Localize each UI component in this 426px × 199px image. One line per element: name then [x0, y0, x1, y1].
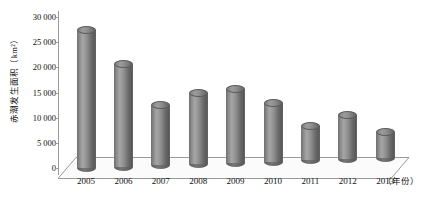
- x-axis-tick-labels: 200520062007200820092010201120122013: [58, 176, 426, 190]
- cylinder-shape: [338, 111, 357, 163]
- cylinder-body: [301, 126, 320, 160]
- bar-2008: [189, 89, 208, 168]
- bar-2012: [338, 111, 357, 163]
- x-axis-tick-label-2010: 2010: [253, 176, 293, 187]
- cylinder-body: [376, 132, 395, 157]
- y-axis-tick-label: 30 000: [10, 13, 56, 22]
- cylinder-shape: [114, 60, 133, 171]
- x-axis-tick-label-2006: 2006: [103, 176, 143, 187]
- cylinder-shape: [77, 26, 96, 172]
- cylinder-top-ellipse: [338, 111, 357, 119]
- bar-2006: [114, 60, 133, 171]
- cylinder-body: [338, 115, 357, 159]
- y-axis-tick-label: 5 000: [10, 139, 56, 148]
- bar-2009: [226, 85, 245, 166]
- y-axis-tick-labels: 05 00010 00015 00020 00025 00030 000: [10, 0, 56, 199]
- x-axis-tick-label-2005: 2005: [66, 176, 106, 187]
- x-axis-tick-label-2011: 2011: [290, 176, 330, 187]
- cylinder-top-ellipse: [77, 26, 96, 34]
- y-axis-tick-label: 0: [10, 164, 56, 173]
- cylinder-top-ellipse: [189, 89, 208, 97]
- y-axis-tick-label: 10 000: [10, 114, 56, 123]
- bar-2013: [376, 128, 395, 161]
- cylinder-top-ellipse: [301, 122, 320, 130]
- cylinder-body: [226, 89, 245, 162]
- cylinder-shape: [189, 89, 208, 168]
- y-axis-tick-label: 25 000: [10, 38, 56, 47]
- bar-2005: [77, 26, 96, 172]
- y-axis-tick-label: 20 000: [10, 63, 56, 72]
- plot-area: [58, 6, 418, 199]
- x-axis-tick-label-2012: 2012: [328, 176, 368, 187]
- cylinder-body: [77, 30, 96, 168]
- cylinder-body: [114, 64, 133, 167]
- y-axis-tick-label: 15 000: [10, 89, 56, 98]
- cylinder-shape: [226, 85, 245, 166]
- chart-container: 赤潮发生面积（km²） 05 00010 00015 00020 00025 0…: [0, 0, 426, 199]
- x-axis-title: （年份）: [383, 176, 419, 187]
- x-axis-tick-label-2008: 2008: [178, 176, 218, 187]
- cylinder-top-ellipse: [264, 99, 283, 107]
- x-axis-tick-label-2007: 2007: [141, 176, 181, 187]
- bar-2007: [151, 101, 170, 169]
- cylinder-shape: [376, 128, 395, 161]
- cylinder-body: [151, 105, 170, 165]
- x-axis-tick-label-2009: 2009: [216, 176, 256, 187]
- cylinder-shape: [301, 122, 320, 164]
- bar-2010: [264, 99, 283, 165]
- cylinder-body: [264, 103, 283, 161]
- cylinder-body: [189, 93, 208, 164]
- cylinder-shape: [151, 101, 170, 169]
- bar-series: [58, 6, 418, 181]
- cylinder-shape: [264, 99, 283, 165]
- cylinder-top-ellipse: [114, 60, 133, 68]
- bar-2011: [301, 122, 320, 164]
